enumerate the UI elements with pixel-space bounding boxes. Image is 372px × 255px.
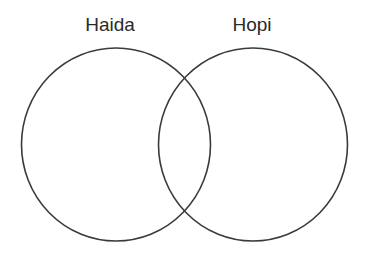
set-label-haida: Haida	[85, 14, 135, 35]
set-label-hopi: Hopi	[232, 14, 271, 35]
circle-haida	[22, 48, 211, 241]
circle-hopi	[159, 48, 348, 241]
venn-diagram: Haida Hopi	[0, 0, 372, 255]
